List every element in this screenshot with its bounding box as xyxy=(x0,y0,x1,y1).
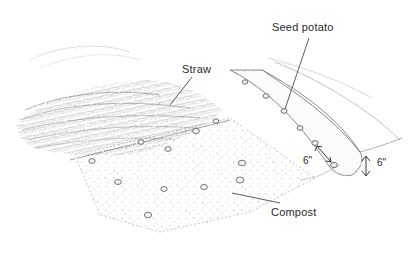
compost-label: Compost xyxy=(271,207,316,218)
spacing-dimension-label: 6" xyxy=(303,156,312,166)
height-arrow-icon xyxy=(362,156,370,176)
height-dimension-label: 6" xyxy=(377,158,386,168)
potato-planting-diagram: Straw Seed potato Compost 6" 6" xyxy=(0,0,410,265)
straw-label: Straw xyxy=(182,64,211,75)
illustration xyxy=(0,0,410,265)
seed-potato-label: Seed potato xyxy=(272,22,334,33)
